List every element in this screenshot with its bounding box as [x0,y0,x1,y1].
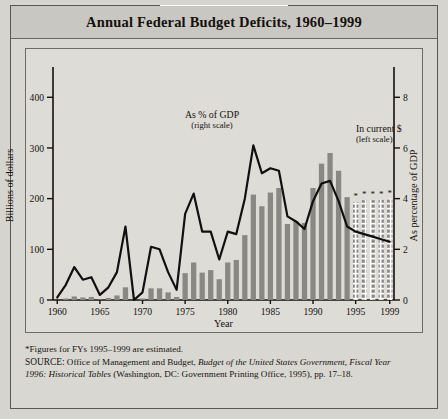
bar [302,223,307,300]
bar [234,260,239,300]
bar [268,193,273,300]
bar [242,235,247,300]
estimate-asterisk: * [353,191,358,201]
y-tick-label-left: 200 [30,193,45,204]
bar-estimated [362,200,367,300]
bar [336,171,341,300]
x-tick-label: 1960 [48,306,67,317]
x-tick-label: 1980 [218,306,237,317]
bar [276,188,281,300]
bar [251,195,256,300]
bar-estimated [379,200,384,300]
source-italic-2: 1996: Historical Tables [25,369,111,379]
bar [182,273,187,300]
bar [200,273,205,300]
x-tick-label: 1965 [90,306,109,317]
bar [72,296,77,300]
bar [327,153,332,300]
bar [174,297,179,300]
plot-panel: 0100200300400024681960196519701975198019… [25,48,423,333]
estimate-asterisk: * [379,189,384,199]
y-tick-label-left: 0 [39,295,44,306]
x-tick-label: 1975 [176,306,195,317]
figure-notes: *Figures for FYs 1995–1999 are estimated… [25,343,425,381]
y-tick-label-left: 300 [30,143,45,154]
bar [106,298,111,300]
estimate-asterisks-group: ***** [353,188,392,202]
chart-title: Annual Federal Budget Deficits, 1960–199… [86,14,362,31]
y-tick-label-left: 400 [30,92,45,103]
bar [208,270,213,300]
y-tick-label-right: 2 [403,244,408,255]
bar [293,221,298,300]
chart-svg: 0100200300400024681960196519701975198019… [26,49,422,332]
bar [63,298,68,300]
estimate-asterisk: * [370,189,375,199]
bar [225,263,230,301]
bar [114,295,119,300]
y-tick-label-right: 0 [403,295,408,306]
estimate-asterisk: * [362,189,367,199]
bar-estimated [370,200,375,300]
bar [140,298,145,300]
title-band: Annual Federal Budget Deficits, 1960–199… [11,6,437,39]
y-tick-label-right: 6 [403,143,408,154]
bar-estimated [353,202,358,300]
annotations-group: As % of GDP(right scale)In current $(lef… [185,109,402,144]
figure-page: Annual Federal Budget Deficits, 1960–199… [0,0,448,419]
y-tick-label-right: 4 [403,193,408,204]
bar [97,299,102,300]
bar [217,279,222,300]
x-axis-title: Year [214,318,233,329]
bar-annotation-subtitle: (left scale) [356,134,393,144]
source-italic-1: Budget of the United States Government, … [198,357,391,367]
y-axis-title-left: Billions of dollars [4,149,15,223]
y-tick-label-right: 8 [403,92,408,103]
line-annotation-subtitle: (right scale) [191,120,232,130]
x-tick-label: 1999 [380,306,399,317]
bar [80,297,85,300]
source-label: SOURCE: [25,357,65,367]
source-line-2: 1996: Historical Tables (Washington, DC:… [25,368,425,381]
bar [285,224,290,300]
x-tick-label: 1985 [261,306,280,317]
bar [259,206,264,300]
line-annotation-title: As % of GDP [185,109,240,120]
source-text-1: Office of Management and Budget, [65,357,198,367]
x-tick-label: 1970 [133,306,152,317]
y-axis-title-right: As percentage of GDP [408,150,419,242]
bar-annotation-title: In current $ [356,123,402,134]
bar [123,287,128,300]
x-tick-label: 1990 [303,306,322,317]
bar [157,288,162,300]
source-text-2: (Washington, DC: Government Printing Off… [111,369,353,379]
bar [148,288,153,300]
bar-estimated [387,199,392,300]
estimate-asterisk: * [387,188,392,198]
footnote: *Figures for FYs 1995–1999 are estimated… [25,343,425,356]
bar [89,297,94,300]
x-tick-label: 1995 [346,306,365,317]
bar [165,292,170,300]
bar [191,263,196,301]
y-tick-label-left: 100 [30,244,45,255]
bar [344,197,349,300]
source-line-1: SOURCE: Office of Management and Budget,… [25,356,425,369]
